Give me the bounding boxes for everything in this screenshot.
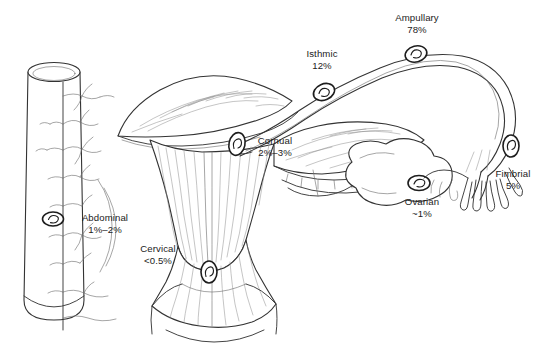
label-isthmic-value: 12% bbox=[287, 60, 357, 72]
label-ovarian: Ovarian ~1% bbox=[391, 196, 453, 219]
label-fimbrial: Fimbrial 5% bbox=[482, 168, 544, 191]
label-cornual-value: 2%–3% bbox=[244, 147, 306, 159]
label-abdominal: Abdominal 1%–2% bbox=[68, 212, 142, 235]
label-ovarian-name: Ovarian bbox=[391, 196, 453, 208]
label-ampullary-name: Ampullary bbox=[377, 12, 457, 24]
label-fimbrial-name: Fimbrial bbox=[482, 168, 544, 180]
label-cervical: Cervical <0.5% bbox=[127, 243, 189, 266]
ectopic-pregnancy-diagram: .ln { fill:none; stroke:#333333; stroke-… bbox=[0, 0, 545, 351]
marker-fimbrial bbox=[503, 135, 519, 157]
label-abdominal-value: 1%–2% bbox=[68, 224, 142, 236]
label-ovarian-value: ~1% bbox=[391, 208, 453, 220]
label-fimbrial-value: 5% bbox=[482, 180, 544, 192]
uterus-structure bbox=[150, 140, 277, 342]
bowel-structure bbox=[24, 63, 116, 331]
anatomy-illustration: .ln { fill:none; stroke:#333333; stroke-… bbox=[0, 0, 545, 351]
label-isthmic-name: Isthmic bbox=[287, 48, 357, 60]
label-isthmic: Isthmic 12% bbox=[287, 48, 357, 71]
label-cornual-name: Cornual bbox=[244, 135, 306, 147]
marker-cervical bbox=[201, 261, 217, 283]
label-ampullary: Ampullary 78% bbox=[377, 12, 457, 35]
label-cornual: Cornual 2%–3% bbox=[244, 135, 306, 158]
label-cervical-name: Cervical bbox=[127, 243, 189, 255]
label-ampullary-value: 78% bbox=[377, 24, 457, 36]
label-abdominal-name: Abdominal bbox=[68, 212, 142, 224]
marker-ovarian bbox=[408, 176, 430, 191]
label-cervical-value: <0.5% bbox=[127, 255, 189, 267]
marker-abdominal bbox=[43, 212, 64, 226]
